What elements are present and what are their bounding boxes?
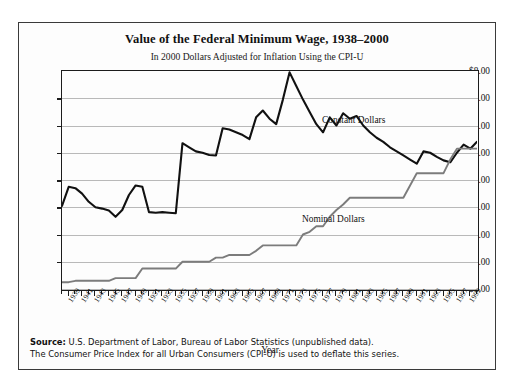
plot-area	[61, 70, 479, 291]
chart-figure: Value of the Federal Minimum Wage, 1938–…	[18, 22, 496, 370]
x-axis-tick	[61, 291, 62, 294]
series-lines	[62, 71, 477, 289]
series-line-nominal-dollars	[62, 149, 477, 283]
series-line-constant-dollars	[62, 72, 477, 216]
chart-footer: Source: U.S. Department of Labor, Bureau…	[30, 336, 484, 360]
source-line: Source: U.S. Department of Labor, Bureau…	[30, 336, 484, 348]
source-label: Source:	[30, 337, 66, 347]
plot-area-wrapper: $0.00$1.00$2.00$3.00$4.00$5.00$6.00$7.00…	[19, 70, 495, 306]
chart-title: Value of the Federal Minimum Wage, 1938–…	[19, 32, 495, 47]
note-line: The Consumer Price Index for all Urban C…	[30, 348, 484, 360]
source-text: U.S. Department of Labor, Bureau of Labo…	[69, 337, 374, 347]
chart-subtitle: In 2000 Dollars Adjusted for Inflation U…	[19, 51, 495, 62]
series-annotation-nominal-dollars: Nominal Dollars	[302, 214, 365, 224]
series-annotation-constant-dollars: Constant Dollars	[322, 115, 385, 125]
